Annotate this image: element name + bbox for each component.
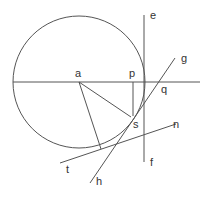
radius-line-to-tangent-point xyxy=(79,82,101,149)
label-p: p xyxy=(129,68,135,79)
label-q: q xyxy=(161,84,167,95)
label-s: s xyxy=(133,119,139,130)
label-n: n xyxy=(173,119,179,130)
label-a: a xyxy=(75,68,81,79)
label-h: h xyxy=(96,176,102,187)
label-t: t xyxy=(66,164,69,175)
radius-line-to-s xyxy=(79,82,131,117)
label-f: f xyxy=(150,157,153,168)
tangent-line-t-n xyxy=(60,124,176,163)
geometry-diagram: a p e g q s n f t h xyxy=(0,0,212,199)
diagram-canvas xyxy=(0,0,212,199)
label-g: g xyxy=(181,53,187,64)
label-e: e xyxy=(150,10,156,21)
